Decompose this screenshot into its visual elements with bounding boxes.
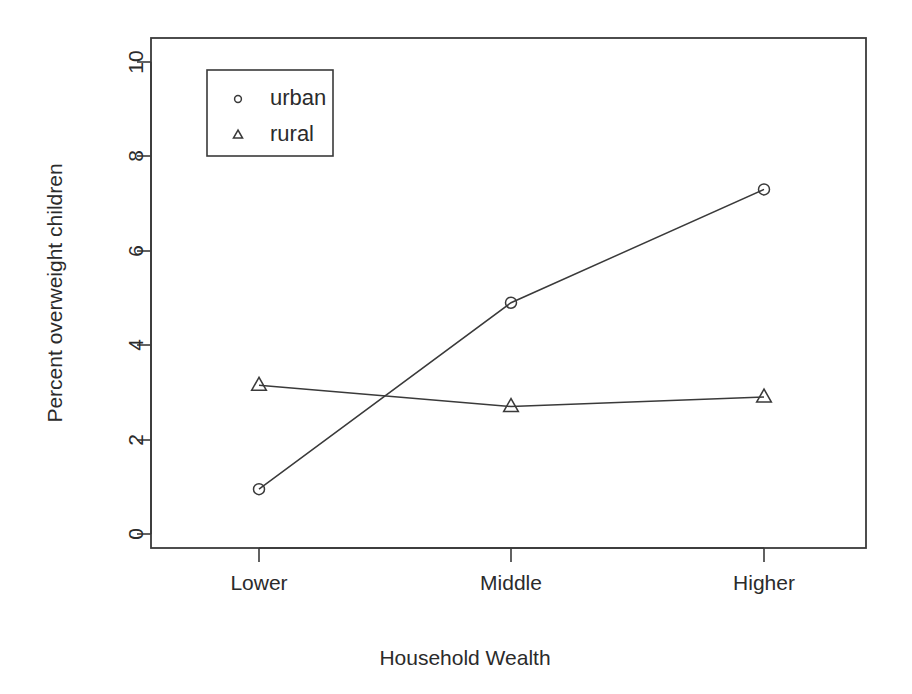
x-tick-label-higher: Higher: [733, 571, 795, 594]
y-tick-label-8: 8: [124, 150, 147, 162]
x-axis-title: Household Wealth: [379, 646, 550, 669]
y-axis-title: Percent overweight children: [43, 163, 66, 422]
y-tick-label-10: 10: [124, 50, 147, 73]
legend-label-urban: urban: [270, 85, 326, 110]
y-tick-label-0: 0: [124, 528, 147, 540]
chart-container: 10 8 6 4 2 0 Percent overweight children…: [0, 0, 912, 694]
line-chart: 10 8 6 4 2 0 Percent overweight children…: [0, 0, 912, 694]
legend: urban rural: [207, 70, 333, 156]
legend-label-rural: rural: [270, 121, 314, 146]
y-tick-label-6: 6: [124, 245, 147, 257]
y-tick-label-2: 2: [124, 434, 147, 446]
x-tick-label-middle: Middle: [480, 571, 542, 594]
x-tick-label-lower: Lower: [230, 571, 287, 594]
y-tick-label-4: 4: [124, 339, 147, 351]
